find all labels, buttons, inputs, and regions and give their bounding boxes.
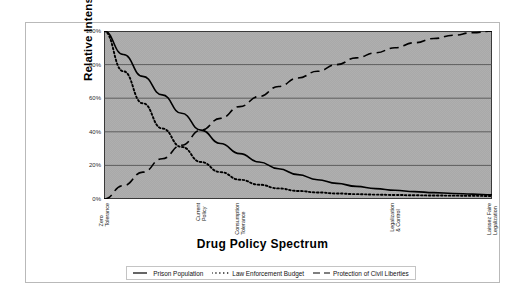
legend-item[interactable]: Law Enforcement Budget [212, 270, 304, 277]
x-tick-label: ConsumptionTolerance [234, 203, 246, 235]
series-line [104, 31, 492, 195]
chart-screenshot: Relative Intensity 0%20%40%60%80%100% Ze… [0, 0, 522, 307]
y-tick-label: 60% [89, 95, 101, 101]
x-tick-label: ZeroTolerance [98, 203, 110, 226]
series-line [104, 31, 492, 199]
y-tick-label: 40% [89, 129, 101, 135]
legend-label: Law Enforcement Budget [232, 270, 304, 277]
x-axis-title: Drug Policy Spectrum [26, 237, 499, 251]
y-axis-title: Relative Intensity [82, 0, 94, 81]
chart-legend: Prison PopulationLaw Enforcement BudgetP… [126, 266, 416, 280]
legend-item[interactable]: Protection of Civil Liberties [313, 270, 409, 277]
legend-item[interactable]: Prison Population [133, 270, 203, 277]
plot-lines [104, 31, 492, 199]
legend-marker-dashed-icon [313, 270, 330, 276]
y-tick-label: 0% [92, 196, 101, 202]
x-tick-label: Legalization& Control [389, 203, 401, 232]
legend-marker-dotted-icon [212, 270, 229, 276]
y-tick-label: 20% [89, 162, 101, 168]
x-tick-label: CurrentPolicy [195, 203, 207, 221]
series-line [104, 31, 492, 196]
chart-frame: Relative Intensity 0%20%40%60%80%100% Ze… [25, 22, 500, 283]
legend-label: Protection of Civil Liberties [333, 270, 409, 277]
plot-area: Relative Intensity 0%20%40%60%80%100% Ze… [104, 31, 492, 199]
legend-label: Prison Population [153, 270, 203, 277]
y-tick-label: 80% [89, 62, 101, 68]
legend-marker-solid-icon [133, 270, 150, 276]
x-tick-label: Laissez FaireLegalization [486, 203, 498, 235]
y-tick-label: 100% [86, 28, 101, 34]
